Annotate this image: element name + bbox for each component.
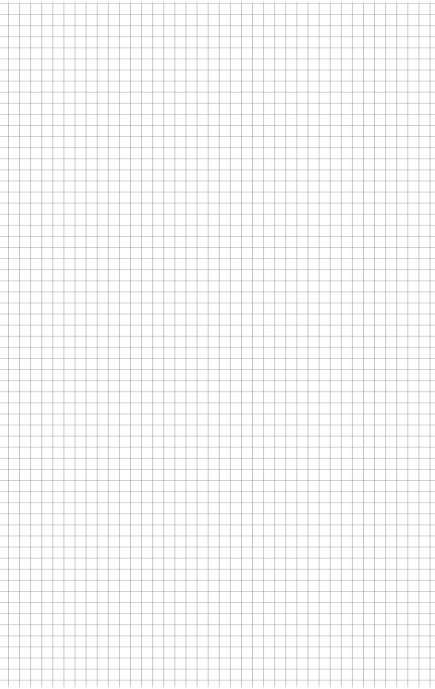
bottom-edge (0, 685, 435, 689)
graph-paper-sheet (0, 0, 435, 689)
top-edge (0, 0, 435, 4)
